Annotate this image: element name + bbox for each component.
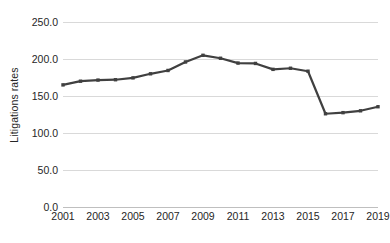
- x-tick-label: 2017: [331, 210, 354, 222]
- data-point-marker: [271, 68, 274, 71]
- data-point-marker: [254, 62, 257, 65]
- data-point-marker: [376, 105, 379, 108]
- y-tick-label: 50.0: [0, 164, 58, 176]
- x-tick-label: 2001: [51, 210, 74, 222]
- x-tick-label: 2015: [296, 210, 319, 222]
- data-point-marker: [289, 67, 292, 70]
- y-tick-label: 150.0: [0, 90, 58, 102]
- x-tick-label: 2013: [261, 210, 284, 222]
- x-tick-label: 2005: [121, 210, 144, 222]
- y-tick-label: 200.0: [0, 53, 58, 65]
- data-point-marker: [341, 111, 344, 114]
- data-point-marker: [219, 57, 222, 60]
- data-point-marker: [96, 78, 99, 81]
- data-point-marker: [61, 83, 64, 86]
- y-axis-tick-labels: 250.0200.0150.0100.050.00.0: [0, 0, 58, 243]
- data-point-marker: [306, 70, 309, 73]
- data-point-marker: [79, 80, 82, 83]
- data-point-marker: [166, 69, 169, 72]
- data-point-marker: [324, 112, 327, 115]
- y-tick-label: 100.0: [0, 127, 58, 139]
- x-tick-label: 2003: [86, 210, 109, 222]
- data-point-marker: [201, 54, 204, 57]
- data-point-marker: [114, 78, 117, 81]
- x-axis-tick-labels: 2001200320052007200920112013201520172019: [0, 210, 383, 230]
- x-axis-line: [63, 207, 378, 208]
- x-tick-label: 2011: [227, 210, 250, 222]
- data-point-marker: [236, 61, 239, 64]
- x-tick-label: 2007: [156, 210, 179, 222]
- y-tick-label: 250.0: [0, 16, 58, 28]
- series-line: [63, 55, 378, 113]
- x-tick-label: 2019: [366, 210, 389, 222]
- data-point-marker: [184, 60, 187, 63]
- data-point-marker: [131, 76, 134, 79]
- data-point-marker: [149, 72, 152, 75]
- x-tick-label: 2009: [191, 210, 214, 222]
- series-litigations-rates: [63, 22, 378, 207]
- plot-area: [63, 22, 378, 207]
- data-point-marker: [359, 109, 362, 112]
